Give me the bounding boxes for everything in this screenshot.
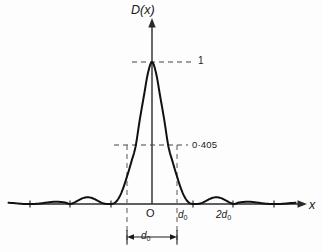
tick-label-d0-subscript: 0: [184, 213, 188, 222]
y-axis-label: D(x): [131, 4, 155, 17]
x-axis-label: x: [309, 199, 315, 212]
diffraction-figure: D(x) x 1 0·405 O d0 2d0 d0: [0, 0, 323, 252]
width-label-subscript: 0: [147, 234, 151, 243]
plot-canvas: [0, 0, 323, 252]
tick-label-2d0-base: 2d: [216, 209, 227, 220]
tick-label-2d0: 2d0: [216, 210, 231, 221]
half-value-label: 0·405: [192, 140, 217, 150]
tick-label-2d0-subscript: 0: [227, 213, 231, 222]
width-arrow: [127, 234, 177, 240]
y-axis: [148, 18, 155, 204]
peak-value-label: 1: [198, 56, 204, 66]
width-label: d0: [141, 231, 151, 242]
tick-label-d0: d0: [178, 210, 188, 221]
origin-label: O: [146, 208, 155, 219]
